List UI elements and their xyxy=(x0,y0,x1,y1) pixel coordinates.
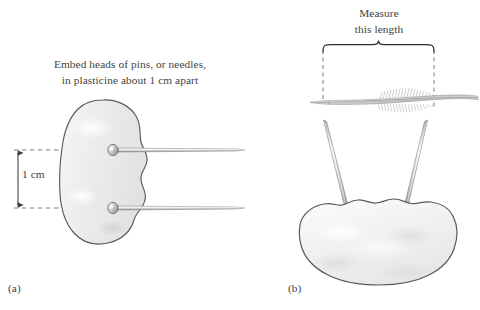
panel-label-b: (b) xyxy=(288,282,301,294)
needle-left xyxy=(324,120,349,208)
measure-label-line-2: this length xyxy=(323,23,435,35)
instruction-line-1: Embed heads of pins, or needles, xyxy=(30,58,230,70)
needle-right xyxy=(404,120,428,208)
feather xyxy=(310,89,478,113)
instruction-line-2: in plasticine about 1 cm apart xyxy=(30,74,230,86)
measure-brace xyxy=(323,41,434,52)
dimension-label-1cm: 1 cm xyxy=(22,168,45,180)
figure-svg xyxy=(0,0,480,310)
figure-container: Embed heads of pins, or needles, in plas… xyxy=(0,0,480,310)
panel-label-a: (a) xyxy=(8,282,21,294)
panel-a-graphics xyxy=(14,100,245,244)
panel-b-graphics xyxy=(299,41,478,285)
measure-label-line-1: Measure xyxy=(323,7,435,19)
